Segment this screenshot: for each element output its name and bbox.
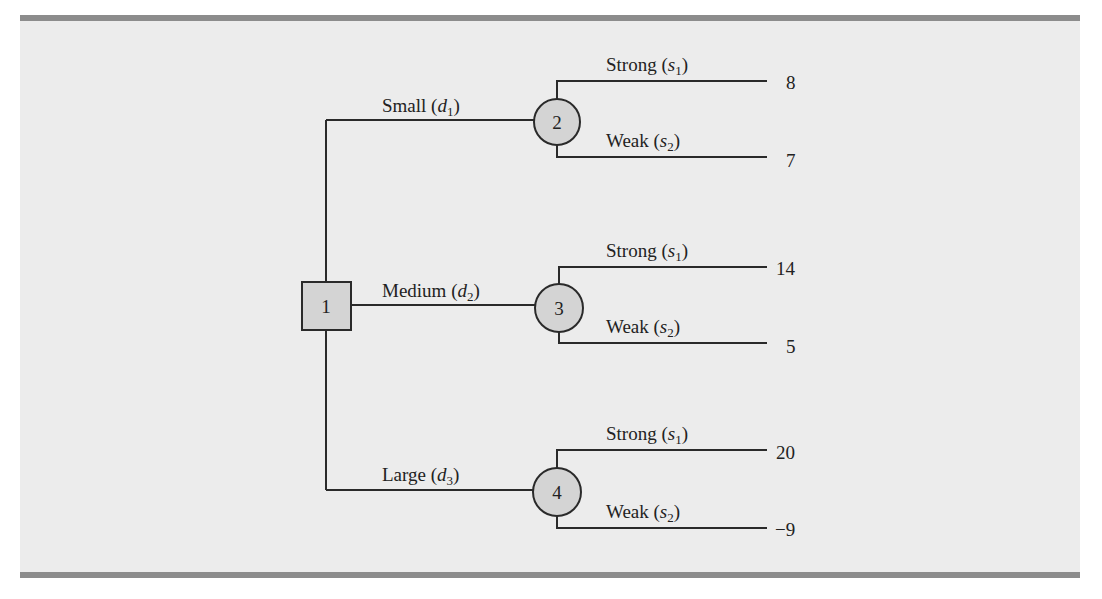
decision-label-large: Large (d3) xyxy=(382,465,459,487)
outcome-label-weak: Weak (s2) xyxy=(606,502,680,524)
payoff-value: 5 xyxy=(786,337,796,356)
decision-node-label: 1 xyxy=(311,297,341,316)
outcome-label-weak: Weak (s2) xyxy=(606,317,680,339)
chance-node-label: 2 xyxy=(542,113,572,132)
decision-label-medium: Medium (d2) xyxy=(382,281,480,303)
chance-node-label: 3 xyxy=(544,299,574,318)
decision-label-small: Small (d1) xyxy=(382,96,460,118)
outcome-label-strong: Strong (s1) xyxy=(606,241,688,263)
outcome-label-weak: Weak (s2) xyxy=(606,131,680,153)
chance-node-label: 4 xyxy=(542,483,572,502)
payoff-value: 14 xyxy=(776,259,795,278)
payoff-value: −9 xyxy=(775,520,795,539)
payoff-value: 20 xyxy=(776,443,795,462)
outcome-label-strong: Strong (s1) xyxy=(606,424,688,446)
payoff-value: 8 xyxy=(786,73,796,92)
payoff-value: 7 xyxy=(786,151,796,170)
outcome-label-strong: Strong (s1) xyxy=(606,55,688,77)
